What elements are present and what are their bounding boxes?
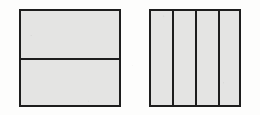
square-fourths-divider-3 — [218, 9, 220, 107]
rectangle-halves-cell-2[interactable] — [19, 58, 121, 107]
square-fourths-divider-1 — [172, 9, 174, 107]
rectangle-halves-divider-1 — [19, 58, 121, 60]
square-fourths-cell-4[interactable] — [218, 9, 241, 107]
square-fourths-cell-2[interactable] — [172, 9, 195, 107]
rectangle-halves-cell-1[interactable] — [19, 9, 121, 58]
rectangle-halves[interactable] — [19, 9, 121, 107]
square-fourths-cell-1[interactable] — [149, 9, 172, 107]
square-fourths-divider-2 — [195, 9, 197, 107]
square-fourths[interactable] — [149, 9, 241, 107]
square-fourths-cell-3[interactable] — [195, 9, 218, 107]
figure-canvas — [0, 0, 260, 115]
